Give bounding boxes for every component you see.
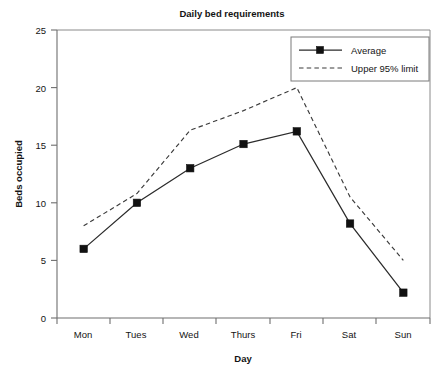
y-axis-tick-labels: 25 20 15 10 5 0 <box>35 25 46 324</box>
chart-container: Daily bed requirements 25 20 15 10 5 0 B… <box>0 0 446 379</box>
series-line-upper-95-limit <box>84 88 404 261</box>
y-tick-label-0: 0 <box>41 313 46 324</box>
line-chart: Daily bed requirements 25 20 15 10 5 0 B… <box>0 0 446 379</box>
legend-label-average: Average <box>351 45 386 56</box>
y-tick-label-5: 5 <box>41 255 46 266</box>
x-tick-label-wed: Wed <box>179 329 198 340</box>
chart-title: Daily bed requirements <box>179 8 284 19</box>
y-axis-title: Beds occupied <box>13 140 24 208</box>
x-tick-label-thurs: Thurs <box>231 329 256 340</box>
y-tick-label-15: 15 <box>35 140 46 151</box>
legend-label-upper-95-limit: Upper 95% limit <box>351 63 418 74</box>
y-axis-ticks <box>51 30 57 318</box>
series-line-average <box>84 131 404 292</box>
y-tick-label-25: 25 <box>35 25 46 36</box>
data-point-marker <box>133 199 140 206</box>
x-tick-label-tues: Tues <box>126 329 147 340</box>
data-point-marker <box>400 289 407 296</box>
x-axis-ticks <box>57 318 430 324</box>
data-point-marker <box>187 165 194 172</box>
data-point-marker <box>346 220 353 227</box>
x-tick-label-sat: Sat <box>342 329 357 340</box>
legend-swatch-average-marker <box>317 47 324 54</box>
x-tick-label-mon: Mon <box>74 329 92 340</box>
legend-box <box>291 37 429 81</box>
data-point-marker <box>240 140 247 147</box>
x-tick-label-sun: Sun <box>395 329 412 340</box>
x-axis-title: Day <box>234 353 252 364</box>
y-tick-label-20: 20 <box>35 83 46 94</box>
series-markers-average <box>80 128 407 297</box>
chart-legend: Average Upper 95% limit <box>291 37 429 81</box>
data-point-marker <box>293 128 300 135</box>
y-tick-label-10: 10 <box>35 198 46 209</box>
x-axis-tick-labels: Mon Tues Wed Thurs Fri Sat Sun <box>74 329 412 340</box>
data-point-marker <box>80 245 87 252</box>
x-tick-label-fri: Fri <box>290 329 301 340</box>
